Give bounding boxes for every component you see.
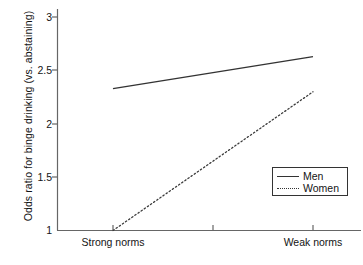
legend-key-solid-icon <box>277 176 299 177</box>
plot-area <box>0 0 363 265</box>
legend-item-women: Women <box>277 182 345 195</box>
legend-key-dotted-icon <box>277 188 299 189</box>
legend-label-women: Women <box>303 182 339 195</box>
legend: Men Women <box>272 167 348 196</box>
chart-figure: Odds ratio for binge drinking (vs. absta… <box>0 0 363 265</box>
series-line-women <box>113 92 313 231</box>
series-line-men <box>113 57 313 89</box>
